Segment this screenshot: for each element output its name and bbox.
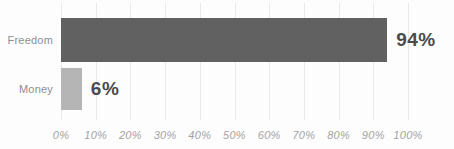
x-tick-label: 20%	[119, 129, 142, 141]
category-label: Freedom	[0, 18, 53, 62]
x-tick-label: 40%	[188, 129, 211, 141]
category-label: Money	[0, 68, 53, 110]
bar-freedom	[61, 18, 387, 62]
x-tick-label: 30%	[154, 129, 177, 141]
x-tick-label: 60%	[258, 129, 281, 141]
x-tick-label: 50%	[223, 129, 246, 141]
plot-area: Freedom94%Money6% 0%10%20%30%40%50%60%70…	[0, 0, 454, 149]
bar-row: Money6%	[0, 68, 454, 110]
x-tick-label: 100%	[393, 129, 422, 141]
x-tick-label: 80%	[327, 129, 350, 141]
bar-chart: Freedom94%Money6% 0%10%20%30%40%50%60%70…	[0, 0, 454, 149]
x-tick-label: 10%	[84, 129, 107, 141]
value-label: 6%	[91, 68, 119, 110]
value-label: 94%	[396, 18, 436, 62]
x-tick-label: 70%	[292, 129, 315, 141]
bar-row: Freedom94%	[0, 18, 454, 62]
bar-money	[61, 68, 82, 110]
x-tick-label: 0%	[53, 129, 70, 141]
x-tick-label: 90%	[362, 129, 385, 141]
